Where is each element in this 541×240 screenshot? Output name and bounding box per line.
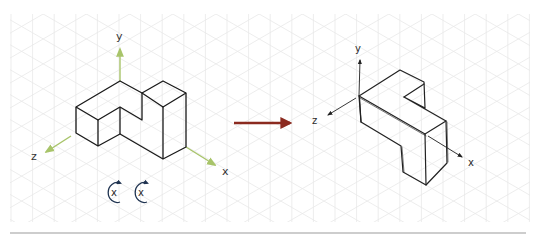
left-x-axis [186, 147, 215, 165]
right-y-axis [359, 60, 360, 96]
rotation-symbol-1: x [108, 182, 120, 202]
right-z-label: z [312, 115, 317, 126]
left-z-label: z [31, 150, 37, 163]
left-view: y z x x x [31, 30, 229, 203]
isometric-diagram: y z x x x y z x [0, 0, 541, 240]
right-x-axis [428, 136, 462, 157]
right-z-axis [328, 98, 356, 115]
right-y-label: y [355, 43, 361, 54]
isometric-grid [0, 0, 541, 240]
right-x-label: x [468, 157, 474, 168]
right-view: y z x [312, 43, 474, 185]
rotation-label: x [111, 187, 117, 198]
left-y-label: y [116, 30, 123, 43]
rotation-label: x [138, 187, 144, 198]
left-x-label: x [222, 165, 229, 178]
